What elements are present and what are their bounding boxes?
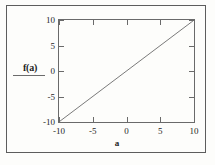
- plot-area: 10 5 0 -5 -10 -10 -5 0 5 10: [59, 20, 194, 122]
- x-tick-5: [160, 117, 161, 122]
- x-tick-label-10: 10: [190, 126, 199, 136]
- y-axis-label: f(a): [13, 62, 47, 73]
- y-tick--10: [59, 122, 64, 123]
- x-tick-0: [127, 117, 128, 122]
- x-tick--10: [59, 117, 60, 122]
- x-tick-10: [194, 117, 195, 122]
- y-tick-right--10: [189, 122, 194, 123]
- y-tick--5: [59, 97, 64, 98]
- x-tick-top--5: [93, 20, 94, 25]
- x-tick-label-5: 5: [158, 126, 163, 136]
- y-tick-label--5: -5: [48, 92, 56, 102]
- y-axis-label-underline: [13, 75, 45, 76]
- x-tick-label--5: -5: [89, 126, 97, 136]
- x-tick-top-10: [194, 20, 195, 25]
- x-tick--5: [93, 117, 94, 122]
- x-tick-label--10: -10: [53, 126, 65, 136]
- y-tick-5: [59, 46, 64, 47]
- x-axis-label: a: [115, 138, 120, 148]
- line-path: [60, 21, 194, 122]
- plot-frame: 10 5 0 -5 -10 -10 -5 0 5 10: [58, 19, 195, 123]
- y-tick-label-5: 5: [51, 41, 56, 51]
- y-axis-label-block: f(a): [13, 62, 47, 76]
- x-tick-top--10: [59, 20, 60, 25]
- y-tick-label-10: 10: [46, 15, 55, 25]
- series-line-identity: [59, 20, 194, 122]
- y-tick-right-5: [189, 46, 194, 47]
- figure-canvas: f(a) 10 5 0 -5 -10: [0, 0, 215, 165]
- x-tick-label-0: 0: [124, 126, 129, 136]
- y-tick-right--5: [189, 97, 194, 98]
- y-tick-label-0: 0: [51, 66, 56, 76]
- y-tick-right-0: [189, 71, 194, 72]
- x-tick-top-5: [160, 20, 161, 25]
- y-tick-0: [59, 71, 64, 72]
- x-tick-top-0: [127, 20, 128, 25]
